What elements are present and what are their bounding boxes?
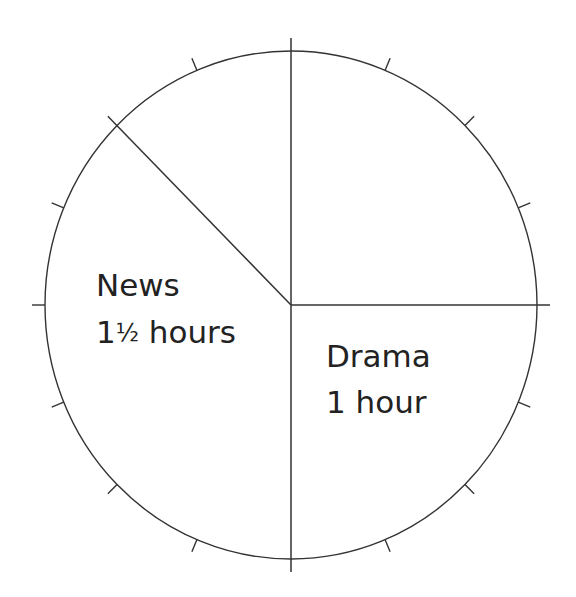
slice-label-news: News 1½ hours bbox=[96, 262, 236, 357]
drama-title: Drama bbox=[326, 333, 431, 379]
tick-mark bbox=[385, 58, 390, 70]
tick-mark bbox=[385, 540, 390, 552]
tick-mark bbox=[108, 485, 117, 494]
tick-mark bbox=[465, 116, 474, 125]
pie-chart bbox=[0, 0, 576, 597]
tick-mark bbox=[518, 203, 530, 208]
tick-mark bbox=[52, 203, 64, 208]
news-title: News bbox=[96, 262, 236, 309]
news-duration: 1½ hours bbox=[96, 309, 236, 357]
tick-mark bbox=[518, 402, 530, 407]
drama-duration: 1 hour bbox=[326, 379, 431, 425]
tick-mark bbox=[192, 540, 197, 552]
tick-mark bbox=[52, 402, 64, 407]
tick-mark bbox=[465, 485, 474, 494]
slice-label-drama: Drama 1 hour bbox=[326, 333, 431, 425]
tick-mark bbox=[192, 58, 197, 70]
